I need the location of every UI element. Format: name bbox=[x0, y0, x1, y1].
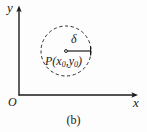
x-axis-label: x bbox=[133, 96, 139, 109]
y-axis bbox=[16, 6, 21, 96]
point-label: P(x0,y0) bbox=[45, 55, 82, 69]
y-axis-label: y bbox=[7, 1, 13, 14]
figure-container: y x O δ P(x0,y0) (b) bbox=[0, 0, 147, 132]
delta-label: δ bbox=[71, 33, 77, 45]
point-label-prefix: P(x bbox=[45, 54, 62, 68]
figure-caption: (b) bbox=[0, 113, 147, 128]
point-label-mid: ,y bbox=[66, 54, 74, 68]
origin-label: O bbox=[8, 96, 17, 108]
center-point-marker bbox=[65, 50, 68, 53]
x-axis bbox=[19, 92, 138, 97]
point-label-suffix: ) bbox=[78, 54, 82, 68]
